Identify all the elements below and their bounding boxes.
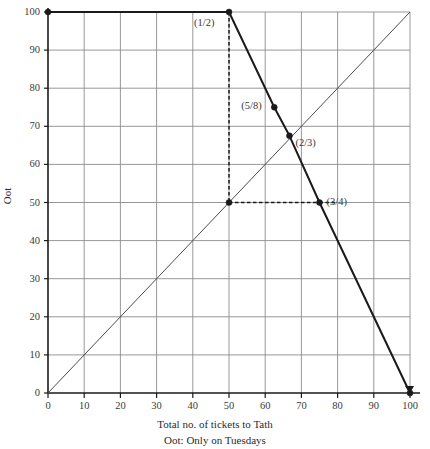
y-tick-label: 30 bbox=[0, 274, 40, 285]
y-tick-label: 20 bbox=[0, 312, 40, 323]
y-tick-label: 100 bbox=[0, 7, 40, 18]
x-tick-label: 90 bbox=[354, 401, 394, 412]
y-tick-label: 90 bbox=[0, 45, 40, 56]
annotation-58: (5/8) bbox=[241, 101, 261, 112]
x-tick-label: 20 bbox=[100, 401, 140, 412]
x-tick-label: 40 bbox=[173, 401, 213, 412]
y-tick-label: 70 bbox=[0, 121, 40, 132]
x-tick-label: 0 bbox=[28, 401, 68, 412]
y-tick-label: 60 bbox=[0, 159, 40, 170]
plot-canvas bbox=[0, 0, 430, 449]
x-tick-label: 30 bbox=[137, 401, 177, 412]
x-tick-label: 50 bbox=[209, 401, 249, 412]
y-tick-label: 40 bbox=[0, 236, 40, 247]
data-point-half bbox=[226, 9, 232, 15]
chart-figure: 0102030405060708090100 01020304050607080… bbox=[0, 0, 430, 449]
x-tick-label: 80 bbox=[318, 401, 358, 412]
axis-lines bbox=[48, 8, 420, 393]
data-point-five-eighths bbox=[271, 104, 277, 110]
x-tick-label: 10 bbox=[64, 401, 104, 412]
x-tick-label: 60 bbox=[245, 401, 285, 412]
data-point-three-quarters bbox=[317, 200, 323, 206]
x-tick-label: 100 bbox=[390, 401, 430, 412]
x-axis-title: Total no. of tickets to Tath bbox=[0, 419, 430, 430]
y-tick-label: 80 bbox=[0, 83, 40, 94]
annotation-23: (2/3) bbox=[295, 138, 315, 149]
figure-note: Oot: Only on Tuesdays bbox=[0, 435, 430, 446]
y-axis-title: Oot bbox=[2, 188, 13, 205]
data-point-origin-top-left bbox=[45, 9, 51, 15]
annotation-12: (1/2) bbox=[194, 18, 214, 29]
y-tick-label: 10 bbox=[0, 350, 40, 361]
data-point-midpoint-fifty-fifty bbox=[226, 200, 232, 206]
x-tick-label: 70 bbox=[281, 401, 321, 412]
annotation-34: (3/4) bbox=[327, 197, 347, 208]
y-tick-label: 0 bbox=[0, 388, 40, 399]
data-point-two-thirds bbox=[286, 133, 292, 139]
